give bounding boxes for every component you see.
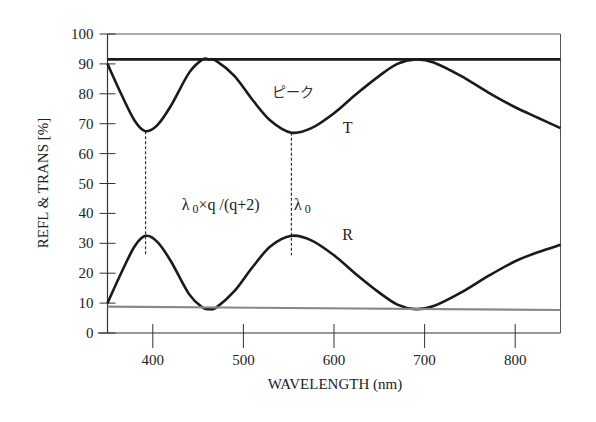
y-tick-label: 70 [79, 116, 94, 132]
y-tick-label: 100 [71, 26, 94, 42]
x-tick-label: 600 [323, 352, 346, 368]
y-tick-label: 40 [79, 205, 94, 221]
series-lower-reference-line [108, 307, 561, 310]
y-tick-label: 10 [79, 295, 94, 311]
plot-frame [98, 34, 561, 333]
x-tick-label: 700 [413, 352, 436, 368]
annotation-label: R [342, 226, 353, 243]
x-tick-label: 800 [504, 352, 527, 368]
series-t [108, 58, 561, 133]
data-series [108, 58, 561, 310]
dashed-marker-lines [146, 131, 292, 255]
annotation-label: T [343, 119, 353, 136]
y-tick-label: 20 [79, 265, 94, 281]
y-tick-label: 80 [79, 86, 94, 102]
x-axis-ticks: 400500600700800 [142, 324, 527, 368]
annotation-label: λ0×q /(q+2) [182, 196, 260, 216]
y-tick-label: 50 [79, 176, 94, 192]
annotations: ピークTRλ0×q /(q+2)λ0 [182, 84, 353, 244]
y-tick-label: 60 [79, 146, 94, 162]
series-r [108, 236, 561, 310]
annotation-label: λ0 [294, 196, 311, 216]
chart: 0102030405060708090100 400500600700800 ピ… [0, 0, 596, 422]
y-tick-label: 30 [79, 235, 94, 251]
x-tick-label: 500 [232, 352, 255, 368]
x-axis-label: WAVELENGTH (nm) [268, 376, 402, 393]
y-axis-ticks: 0102030405060708090100 [71, 26, 116, 341]
x-tick-label: 400 [142, 352, 165, 368]
y-axis-label: REFL & TRANS [%] [35, 118, 51, 248]
y-tick-label: 0 [86, 325, 94, 341]
y-tick-label: 90 [79, 56, 94, 72]
annotation-label: ピーク [272, 84, 314, 100]
